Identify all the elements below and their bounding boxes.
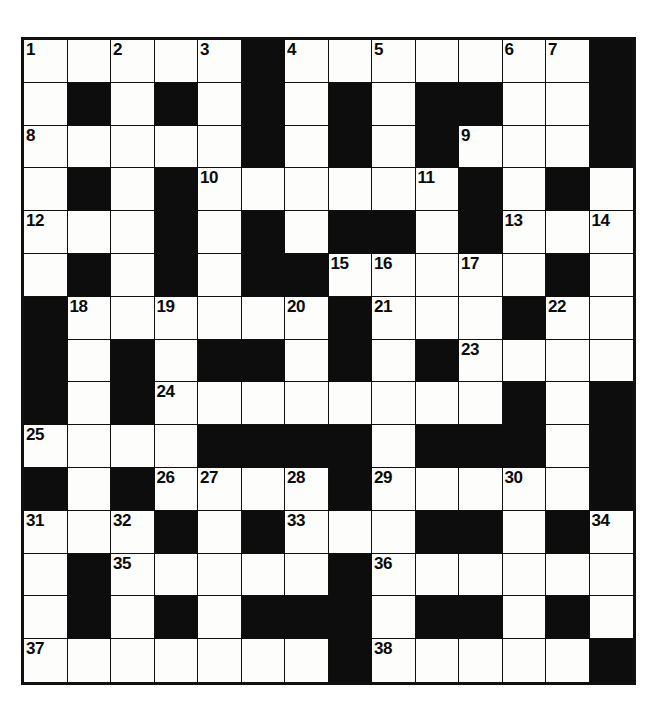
crossword-letter-cell[interactable]	[198, 297, 242, 340]
crossword-letter-cell-6[interactable]: 6	[503, 40, 547, 83]
crossword-letter-cell[interactable]	[459, 554, 503, 597]
crossword-letter-cell[interactable]	[546, 468, 590, 511]
crossword-letter-cell[interactable]	[546, 211, 590, 254]
crossword-letter-cell-15[interactable]: 15	[329, 254, 373, 297]
crossword-letter-cell-13[interactable]: 13	[503, 211, 547, 254]
crossword-letter-cell[interactable]	[372, 83, 416, 126]
crossword-letter-cell-12[interactable]: 12	[24, 211, 68, 254]
crossword-letter-cell-3[interactable]: 3	[198, 40, 242, 83]
crossword-letter-cell[interactable]	[24, 83, 68, 126]
crossword-letter-cell[interactable]	[416, 211, 460, 254]
crossword-letter-cell[interactable]	[111, 254, 155, 297]
crossword-letter-cell-19[interactable]: 19	[155, 297, 199, 340]
crossword-letter-cell[interactable]	[285, 554, 329, 597]
crossword-letter-cell-38[interactable]: 38	[372, 639, 416, 682]
crossword-letter-cell-33[interactable]: 33	[285, 511, 329, 554]
crossword-grid[interactable]: 1234567891011121314151617181920212223242…	[21, 37, 636, 685]
crossword-letter-cell-2[interactable]: 2	[111, 40, 155, 83]
crossword-letter-cell[interactable]	[546, 340, 590, 383]
crossword-letter-cell-16[interactable]: 16	[372, 254, 416, 297]
crossword-letter-cell-1[interactable]: 1	[24, 40, 68, 83]
crossword-letter-cell[interactable]	[111, 211, 155, 254]
crossword-letter-cell[interactable]	[111, 425, 155, 468]
crossword-letter-cell-37[interactable]: 37	[24, 639, 68, 682]
crossword-letter-cell[interactable]	[68, 468, 112, 511]
crossword-letter-cell[interactable]	[546, 126, 590, 169]
crossword-letter-cell[interactable]	[372, 596, 416, 639]
crossword-letter-cell[interactable]	[24, 554, 68, 597]
crossword-letter-cell[interactable]	[198, 554, 242, 597]
crossword-letter-cell[interactable]	[198, 254, 242, 297]
crossword-letter-cell-5[interactable]: 5	[372, 40, 416, 83]
crossword-letter-cell[interactable]	[416, 468, 460, 511]
crossword-letter-cell[interactable]	[546, 83, 590, 126]
crossword-letter-cell-7[interactable]: 7	[546, 40, 590, 83]
crossword-letter-cell[interactable]	[546, 425, 590, 468]
crossword-letter-cell[interactable]	[68, 511, 112, 554]
crossword-letter-cell[interactable]	[590, 297, 634, 340]
crossword-letter-cell[interactable]	[503, 511, 547, 554]
crossword-letter-cell[interactable]	[329, 511, 373, 554]
crossword-letter-cell-32[interactable]: 32	[111, 511, 155, 554]
crossword-letter-cell[interactable]	[590, 596, 634, 639]
crossword-letter-cell[interactable]	[111, 83, 155, 126]
crossword-letter-cell-34[interactable]: 34	[590, 511, 634, 554]
crossword-letter-cell[interactable]	[111, 168, 155, 211]
crossword-letter-cell[interactable]	[372, 382, 416, 425]
crossword-letter-cell[interactable]	[416, 382, 460, 425]
crossword-letter-cell[interactable]	[242, 297, 286, 340]
crossword-letter-cell[interactable]	[546, 554, 590, 597]
crossword-letter-cell[interactable]	[372, 340, 416, 383]
crossword-letter-cell[interactable]	[68, 639, 112, 682]
crossword-letter-cell[interactable]	[198, 596, 242, 639]
crossword-letter-cell[interactable]	[198, 382, 242, 425]
crossword-letter-cell-22[interactable]: 22	[546, 297, 590, 340]
crossword-letter-cell[interactable]	[590, 168, 634, 211]
crossword-letter-cell-20[interactable]: 20	[285, 297, 329, 340]
crossword-letter-cell[interactable]	[459, 40, 503, 83]
crossword-letter-cell-29[interactable]: 29	[372, 468, 416, 511]
crossword-letter-cell[interactable]	[503, 554, 547, 597]
crossword-letter-cell[interactable]	[111, 297, 155, 340]
crossword-letter-cell[interactable]	[111, 596, 155, 639]
crossword-letter-cell[interactable]	[416, 639, 460, 682]
crossword-letter-cell[interactable]	[242, 554, 286, 597]
crossword-letter-cell[interactable]	[285, 168, 329, 211]
crossword-letter-cell[interactable]	[285, 639, 329, 682]
crossword-letter-cell[interactable]	[242, 168, 286, 211]
crossword-letter-cell[interactable]	[155, 40, 199, 83]
crossword-letter-cell[interactable]	[285, 211, 329, 254]
crossword-letter-cell[interactable]	[111, 126, 155, 169]
crossword-letter-cell[interactable]	[242, 382, 286, 425]
crossword-letter-cell[interactable]	[68, 126, 112, 169]
crossword-letter-cell[interactable]	[546, 382, 590, 425]
crossword-letter-cell[interactable]	[155, 126, 199, 169]
crossword-letter-cell[interactable]	[24, 168, 68, 211]
crossword-letter-cell[interactable]	[590, 554, 634, 597]
crossword-letter-cell[interactable]	[111, 639, 155, 682]
crossword-letter-cell[interactable]	[416, 254, 460, 297]
crossword-letter-cell[interactable]	[198, 211, 242, 254]
crossword-letter-cell-27[interactable]: 27	[198, 468, 242, 511]
crossword-letter-cell-8[interactable]: 8	[24, 126, 68, 169]
crossword-letter-cell[interactable]	[503, 596, 547, 639]
crossword-letter-cell-35[interactable]: 35	[111, 554, 155, 597]
crossword-letter-cell[interactable]	[416, 297, 460, 340]
crossword-letter-cell-30[interactable]: 30	[503, 468, 547, 511]
crossword-letter-cell[interactable]	[546, 639, 590, 682]
crossword-letter-cell[interactable]	[503, 340, 547, 383]
crossword-letter-cell[interactable]	[590, 254, 634, 297]
crossword-letter-cell[interactable]	[155, 639, 199, 682]
crossword-letter-cell[interactable]	[503, 83, 547, 126]
crossword-letter-cell[interactable]	[590, 340, 634, 383]
crossword-letter-cell-21[interactable]: 21	[372, 297, 416, 340]
crossword-letter-cell-26[interactable]: 26	[155, 468, 199, 511]
crossword-letter-cell[interactable]	[329, 382, 373, 425]
crossword-letter-cell[interactable]	[155, 425, 199, 468]
crossword-letter-cell-14[interactable]: 14	[590, 211, 634, 254]
crossword-letter-cell-11[interactable]: 11	[416, 168, 460, 211]
crossword-letter-cell[interactable]	[459, 468, 503, 511]
crossword-letter-cell[interactable]	[285, 340, 329, 383]
crossword-letter-cell[interactable]	[198, 83, 242, 126]
crossword-letter-cell-28[interactable]: 28	[285, 468, 329, 511]
